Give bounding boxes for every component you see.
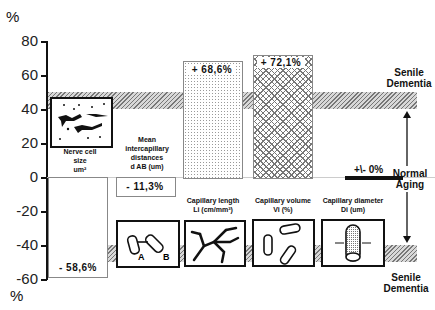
capillary-volume-image xyxy=(252,219,315,267)
capillary-length-image xyxy=(184,220,246,267)
y-tick xyxy=(41,75,47,77)
y-tick-label: -60 xyxy=(4,271,38,286)
y-tick-label: 0 xyxy=(4,169,38,184)
label-line: intercapillary xyxy=(112,144,182,153)
y-tick xyxy=(41,211,47,213)
label-line: Capillary volume xyxy=(250,196,316,205)
y-tick xyxy=(41,41,47,43)
label-senile-dementia-bottom: Senile Dementia xyxy=(378,272,434,294)
y-tick-label: 20 xyxy=(4,135,38,150)
label-line: Senile xyxy=(378,272,434,283)
label-line: Li (cm/mm³) xyxy=(181,205,245,214)
value-label-capillary-volume: + 72,1% xyxy=(257,57,305,68)
label-line: Dementia xyxy=(384,78,434,89)
y-unit-top: % xyxy=(6,8,19,25)
label-capillary-diameter: Capillary diameter Di (um) xyxy=(318,196,388,214)
y-tick-label: 80 xyxy=(4,33,38,48)
label-capillary-length: Capillary length Li (cm/mm³) xyxy=(181,196,245,214)
intercapillary-image: A B xyxy=(116,220,180,268)
y-unit-bottom: % xyxy=(10,287,23,304)
nerve-cell-image xyxy=(50,97,113,148)
y-tick xyxy=(41,109,47,111)
y-tick xyxy=(41,245,47,247)
capillary-diameter-image xyxy=(321,219,385,267)
svg-text:B: B xyxy=(163,252,170,262)
capillary-network-icon xyxy=(186,222,244,265)
value-label-capillary-length: + 68,6% xyxy=(188,64,236,75)
value-label-intercapillary: - 11,3% xyxy=(122,181,168,192)
label-line: Di (um) xyxy=(318,205,388,214)
bar-capillary-length xyxy=(183,61,243,179)
label-line: Vi (%) xyxy=(250,205,316,214)
label-nerve-cell-size: Nerve cell size um² xyxy=(48,147,112,174)
y-tick-label: -40 xyxy=(4,237,38,252)
svg-text:A: A xyxy=(138,252,145,262)
y-tick-label: -20 xyxy=(4,203,38,218)
nerve-cell-icon xyxy=(52,99,111,146)
value-label-nerve-cell: - 58,6% xyxy=(56,262,100,273)
label-line: Capillary length xyxy=(181,196,245,205)
label-senile-dementia-top: Senile Dementia xyxy=(384,67,434,89)
label-line: um² xyxy=(48,165,112,174)
label-normal-aging: Normal Aging xyxy=(386,168,434,190)
value-label-capillary-diameter: +\- 0% xyxy=(354,164,383,175)
label-line: Mean xyxy=(112,135,182,144)
label-line: Normal xyxy=(386,168,434,179)
label-line: Dementia xyxy=(378,283,434,294)
label-line: Aging xyxy=(386,179,434,190)
label-line: d AB (um) xyxy=(112,162,182,171)
label-line: Capillary diameter xyxy=(318,196,388,205)
label-line: Nerve cell xyxy=(48,147,112,156)
y-tick-label: 40 xyxy=(4,101,38,116)
label-capillary-volume: Capillary volume Vi (%) xyxy=(250,196,316,214)
capillary-segments-icon xyxy=(254,221,313,265)
y-tick-label: 60 xyxy=(4,67,38,82)
label-line: distances xyxy=(112,153,182,162)
y-tick xyxy=(41,143,47,145)
capillary-distance-icon: A B xyxy=(118,222,178,266)
label-line: size xyxy=(48,156,112,165)
label-intercapillary-distance: Mean intercapillary distances d AB (um) xyxy=(112,135,182,171)
capillary-tube-icon xyxy=(323,221,383,265)
arrow-up-icon xyxy=(400,110,414,166)
arrow-down-icon xyxy=(400,192,414,244)
label-line: Senile xyxy=(384,67,434,78)
y-tick xyxy=(41,279,47,281)
bar-capillary-volume xyxy=(253,55,313,179)
